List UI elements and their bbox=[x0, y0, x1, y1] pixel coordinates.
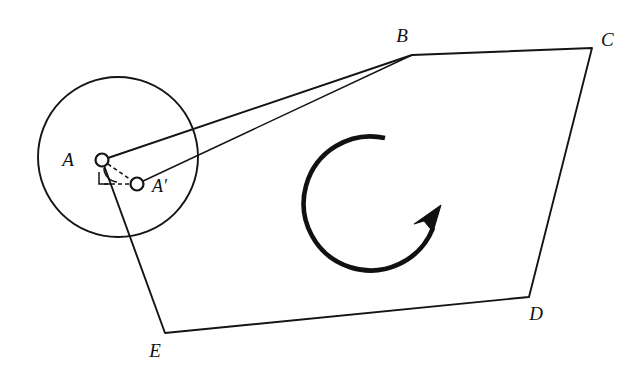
vertex-label-b: B bbox=[396, 25, 408, 46]
point-marker-aprime bbox=[131, 178, 144, 191]
geometry-diagram: A B C D E A′ bbox=[0, 0, 635, 381]
vertex-label-c: C bbox=[601, 29, 614, 50]
figure-canvas: A B C D E A′ bbox=[0, 0, 635, 381]
vertex-label-e: E bbox=[148, 340, 161, 361]
point-label-aprime: A′ bbox=[151, 176, 168, 196]
point-marker-a bbox=[96, 154, 109, 167]
vertex-label-a: A bbox=[60, 149, 74, 170]
vertex-label-d: D bbox=[528, 303, 543, 324]
